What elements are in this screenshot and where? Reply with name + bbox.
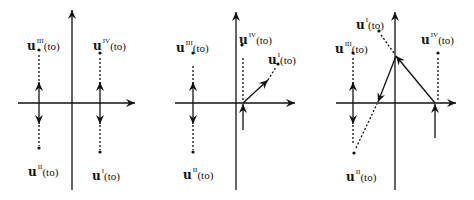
label-argument: (to): [193, 42, 209, 54]
label-superscript: IV: [249, 31, 256, 39]
label-base: u: [28, 165, 37, 179]
panel-1: [18, 10, 135, 190]
point-label-I: uI(to): [356, 19, 384, 31]
dashed-trajectory: [381, 35, 394, 53]
point-label-II: uII(to): [183, 169, 213, 181]
point-label-II: uII(to): [346, 171, 376, 183]
point-label-I: uI(to): [268, 54, 296, 66]
label-base: u: [346, 170, 355, 184]
label-argument: (to): [438, 34, 454, 46]
point-label-III: uIII(to): [27, 40, 60, 52]
point-label-IV: uIV(to): [421, 34, 454, 46]
label-superscript: IV: [103, 37, 110, 45]
label-argument: (to): [352, 43, 368, 55]
phase-diagram: [0, 0, 474, 200]
point-label-IV: uIV(to): [93, 40, 126, 52]
dashed-trajectory: [268, 67, 276, 80]
point-label-III: uIII(to): [176, 42, 209, 54]
label-argument: (to): [44, 40, 60, 52]
point-dot-IV: [436, 51, 439, 54]
label-superscript: IV: [431, 31, 438, 39]
label-superscript: III: [345, 40, 352, 48]
label-superscript: I: [102, 167, 104, 175]
label-superscript: I: [366, 16, 368, 24]
label-base: u: [183, 168, 192, 182]
label-argument: (to): [197, 169, 213, 181]
panel-2: [175, 12, 295, 190]
label-base: u: [268, 53, 277, 67]
label-superscript: II: [38, 163, 43, 171]
label-base: u: [239, 33, 248, 47]
vector-arrow: [378, 56, 396, 102]
point-dot-II: [352, 151, 355, 154]
point-dot-II: [191, 150, 194, 153]
label-argument: (to): [368, 19, 384, 31]
label-argument: (to): [256, 34, 272, 46]
label-base: u: [27, 39, 36, 53]
label-argument: (to): [110, 40, 126, 52]
point-label-III: uIII(to): [335, 43, 368, 55]
label-argument: (to): [42, 166, 58, 178]
label-superscript: III: [186, 39, 193, 47]
point-label-II: uII(to): [28, 166, 58, 178]
dashed-trajectory: [356, 104, 377, 148]
label-base: u: [176, 41, 185, 55]
point-label-I: uI(to): [92, 170, 120, 182]
point-label-IV: uIV(to): [239, 34, 272, 46]
label-superscript: II: [193, 166, 198, 174]
point-dot-II: [37, 146, 40, 149]
vector-arrow: [243, 80, 268, 103]
vector-arrow: [396, 56, 435, 103]
label-base: u: [92, 169, 101, 183]
label-superscript: II: [356, 168, 361, 176]
label-base: u: [93, 39, 102, 53]
label-superscript: III: [37, 37, 44, 45]
point-dot-I: [98, 150, 101, 153]
label-base: u: [421, 33, 430, 47]
label-argument: (to): [360, 171, 376, 183]
label-argument: (to): [280, 54, 296, 66]
label-base: u: [335, 42, 344, 56]
label-superscript: I: [278, 51, 280, 59]
label-base: u: [356, 18, 365, 32]
label-argument: (to): [104, 170, 120, 182]
